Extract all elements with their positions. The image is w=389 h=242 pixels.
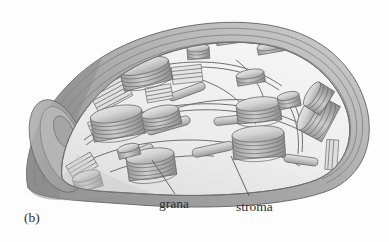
panel-letter: (b): [24, 211, 40, 225]
chloroplast-illustration: [0, 0, 389, 242]
label-stroma: stroma: [236, 200, 273, 214]
chloroplast-figure: grana stroma (b): [0, 0, 389, 242]
label-grana: grana: [159, 197, 189, 211]
